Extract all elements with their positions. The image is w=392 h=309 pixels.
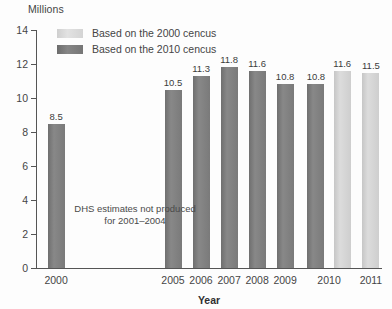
y-tick-label: 0 (22, 262, 28, 274)
x-tick-label: 2007 (217, 274, 240, 286)
y-tick-label: 2 (22, 228, 28, 240)
y-tick-label: 14 (16, 24, 28, 36)
bar-value-label: 10.5 (164, 77, 183, 88)
bar: 11.6 (249, 71, 266, 268)
bar: 11.6 (334, 71, 351, 268)
y-axis-unit-label: Millions (28, 3, 64, 15)
y-tick-mark (31, 268, 36, 269)
bar-value-label: 8.5 (49, 111, 62, 122)
bar: 10.8 (307, 84, 324, 268)
legend-swatch (57, 45, 83, 54)
legend-swatch (57, 29, 83, 38)
no-data-annotation-line1: DHS estimates not produced (60, 203, 210, 215)
x-tick-label: 2009 (273, 274, 296, 286)
bar: 11.8 (221, 67, 238, 268)
y-tick-mark (31, 166, 36, 167)
bar-value-label: 10.8 (276, 71, 295, 82)
y-tick-mark (31, 132, 36, 133)
legend-label: Based on the 2000 cencus (92, 27, 216, 39)
x-axis-title: Year (36, 294, 382, 306)
no-data-annotation-line2: for 2001–2004 (60, 215, 210, 227)
bar-value-label: 11.6 (248, 58, 266, 69)
y-tick-label: 4 (22, 194, 28, 206)
bar: 11.5 (362, 73, 379, 269)
x-tick-label: 2006 (189, 274, 212, 286)
bar: 10.5 (165, 90, 182, 269)
bar: 11.3 (193, 76, 210, 268)
legend-item: Based on the 2010 cencus (57, 42, 216, 56)
bar-chart: Millions 02468101214 8.510.511.311.811.6… (0, 0, 392, 309)
x-axis-line (36, 268, 382, 269)
y-tick-mark (31, 30, 36, 31)
chart-legend: Based on the 2000 cencusBased on the 201… (57, 26, 216, 58)
x-tick-label: 2011 (360, 274, 383, 286)
bar-value-label: 11.3 (192, 63, 210, 74)
y-tick-mark (31, 98, 36, 99)
x-tick-label: 2000 (44, 274, 67, 286)
bar: 10.8 (277, 84, 294, 268)
x-tick-label: 2008 (245, 274, 268, 286)
bar: 8.5 (48, 124, 65, 269)
legend-item: Based on the 2000 cencus (57, 26, 216, 40)
y-axis-line (36, 30, 37, 268)
y-tick-label: 8 (22, 126, 28, 138)
bar-value-label: 10.8 (307, 71, 326, 82)
x-tick-label: 2010 (317, 274, 340, 286)
no-data-annotation: DHS estimates not produced for 2001–2004 (60, 203, 210, 227)
y-tick-mark (31, 234, 36, 235)
y-tick-label: 10 (16, 92, 28, 104)
plot-area: 02468101214 8.510.511.311.811.610.810.81… (36, 30, 382, 268)
bar-value-label: 11.5 (362, 60, 380, 71)
x-tick-label: 2005 (161, 274, 184, 286)
y-tick-mark (31, 200, 36, 201)
y-tick-mark (31, 64, 36, 65)
y-tick-label: 12 (16, 58, 28, 70)
bar-value-label: 11.8 (220, 54, 238, 65)
y-tick-label: 6 (22, 160, 28, 172)
legend-label: Based on the 2010 cencus (92, 43, 216, 55)
bar-value-label: 11.6 (333, 58, 351, 69)
